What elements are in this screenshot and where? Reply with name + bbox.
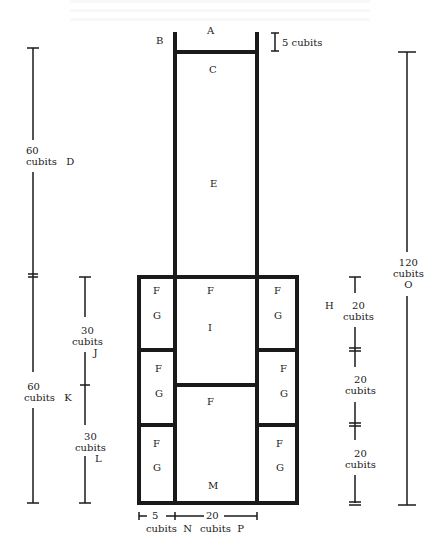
chamber-right-1-f: F	[274, 285, 281, 296]
label-m: M	[208, 480, 218, 491]
chamber-right-2-g: G	[280, 388, 288, 399]
label-b: B	[156, 35, 163, 46]
chamber-right-3-f: F	[276, 438, 283, 449]
label-h: H	[325, 300, 334, 311]
label-f-inner-top: F	[207, 285, 214, 296]
dim-right-total: 120 cubits O	[393, 257, 424, 290]
chamber-left-3-f: F	[153, 438, 160, 449]
dim-bottom-center-value: 20	[206, 510, 219, 521]
label-e: E	[210, 178, 217, 189]
temple-plan-diagram	[0, 0, 440, 556]
chamber-right-1-g: G	[274, 310, 282, 321]
dim-inner-lower: 30 cubits L	[75, 431, 106, 464]
chamber-left-1-f: F	[153, 285, 160, 296]
dim-left-lower: 60 cubits K	[24, 381, 72, 403]
dim-right-seg-1: 20 cubits	[343, 300, 374, 322]
chamber-left-3-g: G	[153, 462, 161, 473]
dim-right-seg-3: 20 cubits	[345, 448, 376, 470]
label-i: I	[208, 322, 212, 333]
label-c: C	[209, 64, 217, 75]
chamber-right-2-f: F	[280, 363, 287, 374]
label-f-inner-mid: F	[207, 396, 214, 407]
chamber-left-1-g: G	[153, 310, 161, 321]
dim-left-upper: 60 cubits D	[26, 145, 74, 167]
dim-right-seg-2: 20 cubits	[345, 374, 376, 396]
dim-bottom-side-value: 5	[152, 510, 158, 521]
dim-inner-upper: 30 cubits J	[72, 325, 103, 358]
label-a: A	[207, 25, 214, 36]
dim-bottom-center: cubits P	[200, 523, 244, 534]
dim-bottom-side: cubits N	[146, 523, 192, 534]
chamber-left-2-g: G	[155, 388, 163, 399]
chamber-right-3-g: G	[276, 462, 284, 473]
dim-top-band: 5 cubits	[282, 37, 322, 48]
chamber-left-2-f: F	[155, 363, 162, 374]
